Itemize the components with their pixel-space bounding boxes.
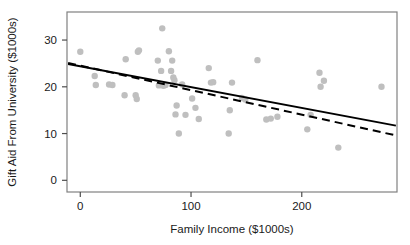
data-point (304, 126, 310, 132)
data-point (173, 102, 179, 108)
data-point (121, 92, 127, 98)
data-point (159, 25, 165, 31)
data-point (254, 57, 260, 63)
y-axis-tick-labels: 0102030 (44, 34, 57, 186)
data-point (317, 84, 323, 90)
data-point (93, 82, 99, 88)
data-point (134, 96, 140, 102)
y-axis-title: Gift Aid From University ($1000s) (6, 17, 18, 187)
y-tick-label: 20 (44, 81, 57, 93)
scatter-plot-figure: 0102030 0100200 Family Income ($1000s) G… (0, 0, 410, 245)
x-axis-ticks (80, 192, 301, 197)
plot-frame (67, 12, 397, 192)
x-tick-label: 0 (77, 200, 83, 212)
data-point (158, 68, 164, 74)
x-axis-title: Family Income ($1000s) (170, 223, 294, 235)
data-point (136, 47, 142, 53)
data-point-group (77, 25, 385, 151)
data-point (268, 115, 274, 121)
x-axis-tick-labels: 0100200 (77, 200, 311, 212)
data-point (316, 70, 322, 76)
data-point (182, 112, 188, 118)
data-point (274, 114, 280, 120)
data-point (122, 56, 128, 62)
data-point (225, 130, 231, 136)
data-point (166, 48, 172, 54)
data-point (229, 79, 235, 85)
fit-line-group (68, 63, 396, 135)
data-point (335, 144, 341, 150)
data-point (210, 79, 216, 85)
y-tick-label: 30 (44, 34, 57, 46)
y-axis-ticks (62, 40, 67, 180)
data-point (169, 57, 175, 63)
data-point (378, 84, 384, 90)
data-point (206, 65, 212, 71)
data-point (176, 130, 182, 136)
data-point (227, 107, 233, 113)
y-tick-label: 10 (44, 128, 57, 140)
x-tick-label: 100 (181, 200, 200, 212)
data-point (155, 57, 161, 63)
data-point (172, 111, 178, 117)
data-point (91, 73, 97, 79)
data-point (168, 68, 174, 74)
data-point (189, 95, 195, 101)
data-point (192, 105, 198, 111)
plot-canvas: 0102030 0100200 Family Income ($1000s) G… (0, 0, 410, 245)
x-tick-label: 200 (292, 200, 311, 212)
least-squares-regression-line (68, 64, 396, 126)
y-tick-label: 0 (51, 174, 57, 186)
data-point (109, 82, 115, 88)
data-point (77, 49, 83, 55)
data-point (196, 116, 202, 122)
data-point (321, 78, 327, 84)
